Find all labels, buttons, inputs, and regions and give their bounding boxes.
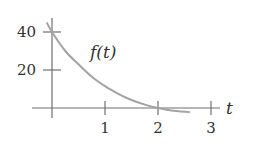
x-tick-label: 2 (153, 119, 163, 137)
x-tick-labels: 123 (100, 119, 216, 137)
curve-label: f(t) (88, 42, 116, 62)
axes (32, 18, 220, 118)
y-tick-label: 40 (17, 23, 36, 41)
y-tick-label: 20 (17, 61, 36, 79)
curve-f-t (47, 23, 190, 113)
x-tick-label: 1 (100, 119, 110, 137)
y-tick-labels: 2040 (17, 23, 36, 79)
x-tick-label: 3 (206, 119, 216, 137)
chart: f(t) t 2040 123 (0, 0, 256, 156)
x-axis-label: t (226, 98, 233, 118)
